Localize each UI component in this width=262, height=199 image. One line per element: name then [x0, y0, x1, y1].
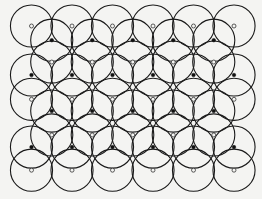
open-center-marker — [90, 60, 94, 64]
open-center-marker — [151, 97, 155, 101]
filled-center-marker — [232, 145, 236, 149]
filled-center-marker — [50, 38, 54, 42]
circles-layer — [10, 5, 255, 191]
open-center-marker — [212, 133, 216, 137]
filled-center-marker — [30, 145, 34, 149]
open-center-marker — [50, 133, 54, 137]
filled-center-marker — [70, 145, 74, 149]
filled-center-marker — [192, 73, 196, 77]
open-center-marker — [111, 168, 115, 172]
filled-center-marker — [90, 109, 94, 113]
open-center-marker — [192, 24, 196, 28]
open-center-marker — [151, 24, 155, 28]
center-markers-layer — [30, 24, 237, 172]
filled-center-marker — [90, 38, 94, 42]
open-center-marker — [212, 60, 216, 64]
open-center-marker — [90, 133, 94, 137]
open-center-marker — [192, 97, 196, 101]
open-center-marker — [30, 24, 34, 28]
open-center-marker — [232, 168, 236, 172]
open-center-marker — [131, 60, 135, 64]
filled-center-marker — [232, 73, 236, 77]
open-center-marker — [131, 133, 135, 137]
filled-center-marker — [151, 145, 155, 149]
open-center-marker — [70, 24, 74, 28]
open-center-marker — [111, 24, 115, 28]
circle-covering-diagram — [0, 0, 262, 199]
open-center-marker — [232, 24, 236, 28]
open-center-marker — [30, 97, 34, 101]
open-center-marker — [70, 168, 74, 172]
open-center-marker — [171, 60, 175, 64]
filled-center-marker — [171, 38, 175, 42]
open-center-marker — [70, 97, 74, 101]
filled-center-marker — [212, 38, 216, 42]
filled-center-marker — [50, 109, 54, 113]
filled-center-marker — [171, 109, 175, 113]
filled-center-marker — [70, 73, 74, 77]
open-center-marker — [232, 97, 236, 101]
filled-center-marker — [151, 73, 155, 77]
filled-center-marker — [111, 73, 115, 77]
filled-center-marker — [30, 73, 34, 77]
filled-center-marker — [212, 109, 216, 113]
filled-center-marker — [111, 145, 115, 149]
open-center-marker — [111, 97, 115, 101]
open-center-marker — [171, 133, 175, 137]
open-center-marker — [30, 168, 34, 172]
open-center-marker — [151, 168, 155, 172]
filled-center-marker — [192, 145, 196, 149]
open-center-marker — [192, 168, 196, 172]
filled-center-marker — [131, 38, 135, 42]
filled-center-marker — [131, 109, 135, 113]
open-center-marker — [50, 60, 54, 64]
